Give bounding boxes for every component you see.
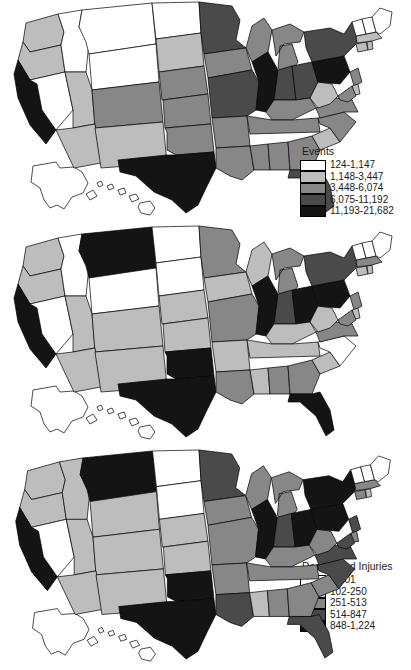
state-AL[interactable] [267, 589, 289, 617]
state-MD[interactable] [337, 533, 355, 549]
state-TX[interactable] [119, 599, 216, 659]
state-TX[interactable] [118, 152, 216, 213]
legend-label-class4: 6,075-11,192 [330, 195, 388, 206]
state-layer [14, 226, 392, 439]
legend-swatch-class5 [300, 206, 326, 218]
state-FL[interactable] [287, 615, 333, 659]
state-MO[interactable] [208, 70, 259, 118]
state-NJ[interactable] [349, 515, 361, 533]
state-KS[interactable] [163, 94, 211, 128]
state-KY[interactable] [266, 98, 316, 120]
choropleth-figure: Events 124-1,147 1,148-3,447 3,448-6,074… [0, 0, 411, 670]
state-CO[interactable] [92, 306, 163, 352]
legend-label-class2: 1,148-3,447 [330, 172, 383, 183]
state-AR[interactable] [212, 340, 250, 372]
state-NJ[interactable] [350, 292, 362, 310]
us-map-deaths [0, 224, 411, 448]
state-OK[interactable] [165, 571, 214, 602]
legend-row: 6,075-11,192 [300, 194, 394, 206]
state-HI[interactable] [97, 405, 155, 439]
state-AZ[interactable] [56, 124, 101, 168]
state-LA[interactable] [216, 593, 254, 627]
state-MO[interactable] [208, 294, 259, 342]
state-NJ[interactable] [350, 68, 362, 86]
state-KY[interactable] [266, 322, 316, 344]
legend-swatch-class3 [300, 183, 326, 195]
legend-label-class5: 11,193-21,682 [330, 206, 394, 217]
state-MN[interactable] [199, 226, 246, 278]
us-map-damage [0, 448, 411, 670]
state-AR[interactable] [212, 563, 250, 595]
legend-rows-events: 124-1,147 1,148-3,447 3,448-6,074 6,075-… [300, 160, 394, 218]
state-LA[interactable] [216, 146, 254, 180]
state-MN[interactable] [199, 450, 246, 502]
state-RI[interactable] [366, 489, 372, 498]
state-FL[interactable] [288, 392, 334, 436]
map-panel-damage: Damage (millions $) 0.22-5.43 5.44-12.47… [0, 448, 411, 670]
legend-title-events: Events [302, 146, 394, 157]
state-OK[interactable] [165, 124, 214, 155]
state-KS[interactable] [163, 541, 211, 575]
legend-swatch-class2 [300, 171, 326, 183]
legend-swatch-class1 [300, 160, 326, 172]
state-SD[interactable] [156, 33, 204, 72]
state-KS[interactable] [163, 318, 211, 352]
state-TX[interactable] [118, 376, 216, 437]
state-MD[interactable] [338, 86, 356, 102]
map-panel-events: Events 124-1,147 1,148-3,447 3,448-6,074… [0, 0, 411, 224]
state-ND[interactable] [152, 2, 201, 39]
state-NY[interactable] [303, 470, 359, 510]
legend-row: 1,148-3,447 [300, 171, 394, 183]
state-MS[interactable] [250, 144, 270, 170]
state-OK[interactable] [165, 348, 214, 379]
state-CT[interactable] [355, 490, 367, 500]
state-MD[interactable] [338, 310, 356, 326]
state-RI[interactable] [367, 265, 373, 274]
state-KY[interactable] [265, 545, 315, 567]
state-AK[interactable] [31, 162, 97, 209]
state-HI[interactable] [98, 627, 155, 661]
state-CO[interactable] [92, 82, 163, 128]
state-MS[interactable] [250, 591, 270, 617]
legend-row: 11,193-21,682 [300, 206, 394, 218]
state-HI[interactable] [97, 181, 155, 215]
legend-label-class1: 124-1,147 [330, 160, 375, 171]
state-MS[interactable] [250, 368, 270, 394]
legend-row: 124-1,147 [300, 160, 394, 172]
state-ND[interactable] [152, 226, 201, 263]
legend-events: Events 124-1,147 1,148-3,447 3,448-6,074… [300, 146, 394, 217]
state-AK[interactable] [31, 386, 97, 433]
state-SD[interactable] [156, 481, 204, 520]
state-AZ[interactable] [56, 348, 101, 392]
state-AZ[interactable] [57, 571, 102, 615]
state-LA[interactable] [216, 370, 254, 404]
state-MO[interactable] [208, 517, 259, 565]
state-SD[interactable] [156, 257, 204, 296]
state-AL[interactable] [268, 366, 290, 394]
state-AK[interactable] [33, 609, 98, 656]
state-layer [16, 450, 391, 661]
state-CO[interactable] [93, 529, 163, 575]
state-CT[interactable] [356, 266, 368, 276]
state-CT[interactable] [356, 42, 368, 52]
state-RI[interactable] [367, 41, 373, 50]
map-panel-deaths: Deaths and Injuries 8-101 102-250 251-51… [0, 224, 411, 448]
legend-label-class3: 3,448-6,074 [330, 183, 383, 194]
state-ND[interactable] [152, 450, 201, 487]
state-NY[interactable] [304, 22, 360, 62]
legend-swatch-class4 [300, 194, 326, 206]
state-NY[interactable] [304, 246, 360, 286]
legend-row: 3,448-6,074 [300, 183, 394, 195]
state-AR[interactable] [212, 116, 250, 148]
state-MN[interactable] [199, 2, 246, 54]
state-AL[interactable] [268, 142, 290, 170]
